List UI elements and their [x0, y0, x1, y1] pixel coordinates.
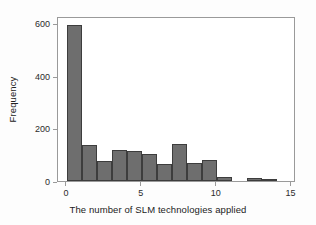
plot-area: [57, 17, 295, 182]
histogram-bar: [247, 178, 262, 181]
x-axis-tick-label: 5: [138, 188, 143, 198]
x-axis-tick-mark: [65, 182, 66, 186]
x-axis-tick-label: 0: [63, 188, 68, 198]
histogram-bar: [172, 144, 187, 181]
histogram-bar: [157, 164, 172, 181]
histogram-bar: [67, 25, 82, 181]
histogram-bar: [202, 160, 217, 181]
histogram-bar: [97, 161, 112, 181]
x-axis-tick-label: 15: [286, 188, 296, 198]
histogram-bar: [142, 154, 157, 181]
x-axis-title: The number of SLM technologies applied: [0, 204, 316, 215]
histogram-bar: [112, 150, 127, 181]
x-axis-tick-mark: [215, 182, 216, 186]
bars-layer: [58, 18, 294, 181]
y-axis-tick-label: 600: [35, 20, 53, 29]
histogram-bar: [217, 177, 232, 181]
histogram-bar: [262, 179, 277, 181]
x-axis-tick-label: 10: [211, 188, 221, 198]
x-axis-tick-mark: [140, 182, 141, 186]
histogram-bar: [187, 163, 202, 181]
histogram-figure: Frequency 0200400600 051015 The number o…: [0, 0, 316, 225]
histogram-bar: [82, 145, 97, 181]
y-axis-tick-label: 200: [35, 125, 53, 134]
y-axis-tick-label: 400: [35, 73, 53, 82]
histogram-bar: [127, 151, 142, 181]
x-axis-tick-mark: [290, 182, 291, 186]
